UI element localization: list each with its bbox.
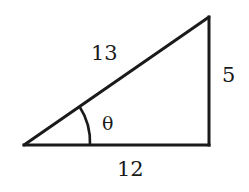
triangle: [24, 17, 209, 145]
right-triangle-diagram: 13 5 12 θ: [0, 0, 249, 192]
hypotenuse-label: 13: [91, 41, 118, 65]
angle-arc: [80, 107, 91, 146]
hypotenuse-line: [24, 17, 209, 145]
adjacent-side-label: 12: [117, 157, 144, 181]
opposite-side-label: 5: [222, 63, 235, 87]
angle-theta-label: θ: [102, 112, 113, 134]
